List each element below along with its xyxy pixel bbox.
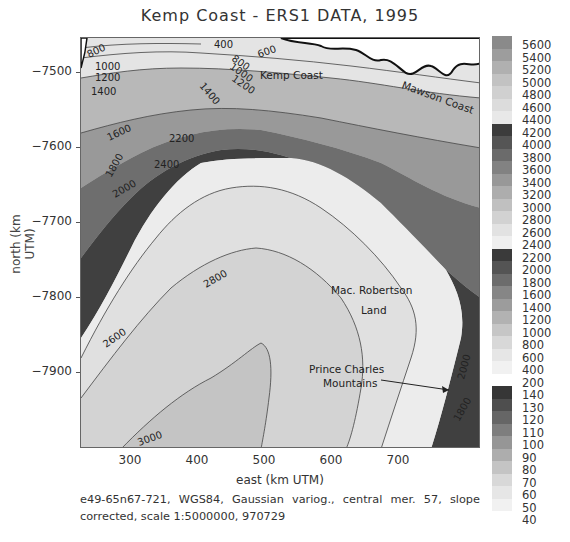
colorbar-swatch <box>492 99 512 112</box>
label-mountains: Mountains <box>323 377 377 389</box>
svg-text:1000: 1000 <box>95 61 120 72</box>
colorbar-swatch <box>492 299 512 312</box>
y-axis-label: north (km UTM) <box>9 199 37 289</box>
colorbar-swatch <box>492 174 512 187</box>
colorbar-swatch <box>492 161 512 174</box>
colorbar-swatch <box>492 486 512 499</box>
colorbar-swatch <box>492 136 512 149</box>
label-land: Land <box>361 304 387 316</box>
y-tick-label: −7600 <box>22 139 72 153</box>
x-tick-label: 300 <box>110 453 150 467</box>
svg-text:400: 400 <box>214 39 233 50</box>
colorbar-swatch <box>492 311 512 324</box>
svg-text:1400: 1400 <box>91 86 116 97</box>
caption: e49-65n67-721, WGS84, Gaussian variog., … <box>80 491 480 525</box>
label-kemp-coast: Kemp Coast <box>260 69 323 81</box>
y-tick-label: −7700 <box>22 214 72 228</box>
colorbar-swatch <box>492 186 512 199</box>
colorbar-swatch <box>492 236 512 249</box>
colorbar-swatch <box>492 336 512 349</box>
colorbar-swatch <box>492 449 512 462</box>
colorbar-swatch <box>492 149 512 162</box>
colorbar-swatch <box>492 436 512 449</box>
label-prince-charles: Prince Charles <box>309 363 384 375</box>
colorbar-swatch <box>492 399 512 412</box>
svg-text:1200: 1200 <box>95 72 120 83</box>
colorbar-swatch <box>492 199 512 212</box>
colorbar-swatch <box>492 224 512 237</box>
x-tick-label: 500 <box>244 453 284 467</box>
chart-title: Kemp Coast - ERS1 DATA, 1995 <box>80 6 480 25</box>
y-tick-label: −7900 <box>22 364 72 378</box>
colorbar-swatch <box>492 274 512 287</box>
colorbar-swatch <box>492 74 512 87</box>
colorbar-swatch <box>492 261 512 274</box>
map-plot-area: 800 1000 1200 1400 1600 1800 2000 2200 2… <box>80 37 480 448</box>
colorbar-swatch <box>492 386 512 399</box>
svg-text:2200: 2200 <box>169 133 194 144</box>
colorbar-swatch <box>492 324 512 337</box>
colorbar-swatch <box>492 211 512 224</box>
label-mac-robertson: Mac. Robertson <box>331 284 412 296</box>
colorbar-swatch <box>492 286 512 299</box>
colorbar-swatch <box>492 349 512 362</box>
colorbar-swatch <box>492 411 512 424</box>
x-tick-label: 700 <box>378 453 418 467</box>
x-axis-label: east (km UTM) <box>80 473 480 487</box>
svg-text:2400: 2400 <box>154 159 179 170</box>
colorbar-swatch <box>492 424 512 437</box>
y-tick-label: −7800 <box>22 289 72 303</box>
x-tick-label: 400 <box>177 453 217 467</box>
x-tick-label: 600 <box>311 453 351 467</box>
colorbar-swatch <box>492 249 512 262</box>
colorbar-swatch <box>492 499 512 512</box>
colorbar-label: 40 <box>522 513 537 527</box>
colorbar-swatch <box>492 461 512 474</box>
colorbar-swatch <box>492 124 512 137</box>
colorbar-swatch <box>492 111 512 124</box>
colorbar-swatch <box>492 49 512 62</box>
colorbar-swatch <box>492 61 512 74</box>
y-tick-label: −7500 <box>22 64 72 78</box>
colorbar-swatch <box>492 361 512 374</box>
colorbar-swatch <box>492 474 512 487</box>
colorbar-swatch <box>492 86 512 99</box>
colorbar-swatch <box>492 36 512 49</box>
elevation-contour-map: 800 1000 1200 1400 1600 1800 2000 2200 2… <box>81 38 480 448</box>
